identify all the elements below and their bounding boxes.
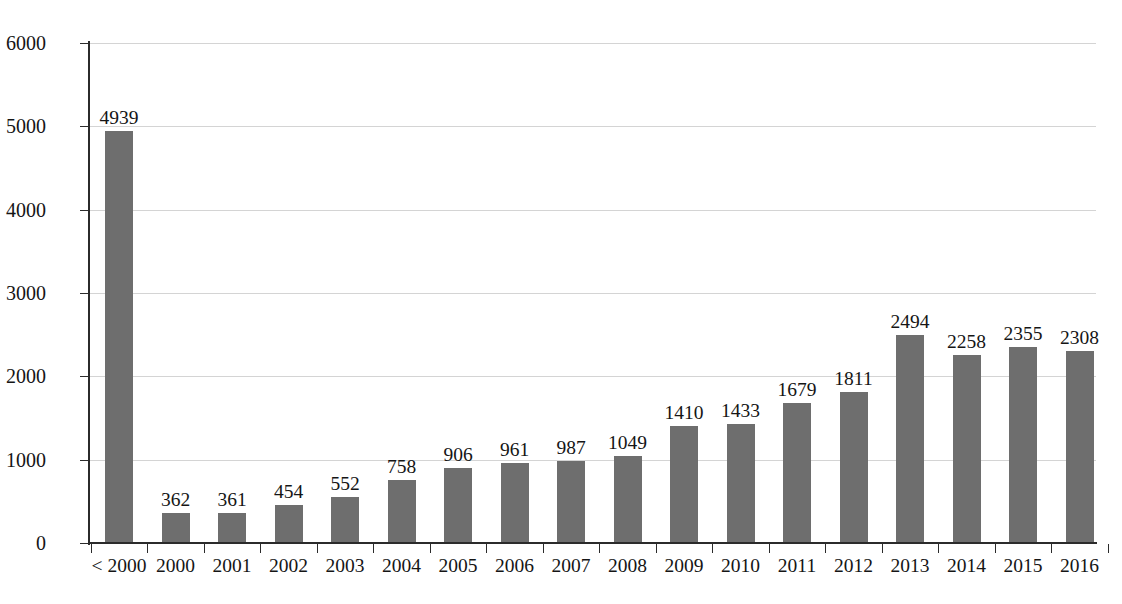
x-axis-tick-label: 2016	[1060, 556, 1099, 576]
x-axis-tick-label: 2009	[665, 556, 704, 576]
gridline	[89, 126, 1096, 127]
bar-value-label: 987	[556, 438, 585, 458]
x-axis-tick-label: 2001	[213, 556, 252, 576]
x-axis-tick-label: 2006	[495, 556, 534, 576]
x-axis-tick	[373, 544, 374, 553]
y-axis-tick	[80, 293, 89, 294]
x-axis-tick	[769, 544, 770, 553]
y-axis-tick-label: 2000	[6, 366, 46, 386]
x-axis-tick	[995, 544, 996, 553]
x-axis-tick-label: 2012	[834, 556, 873, 576]
bar-value-label: 1811	[834, 369, 872, 389]
gridline	[89, 376, 1096, 377]
bar-chart: 0100020003000400050006000 < 200020002001…	[0, 0, 1122, 604]
bar-value-label: 362	[161, 490, 190, 510]
gridline	[89, 293, 1096, 294]
x-axis-tick	[882, 544, 883, 553]
bar-value-label: 2355	[1004, 324, 1043, 344]
bar	[727, 424, 755, 543]
y-axis-tick	[80, 210, 89, 211]
bar-value-label: 906	[443, 445, 472, 465]
bar-value-label: 961	[500, 440, 529, 460]
bar	[388, 480, 416, 543]
x-axis-tick-label: 2004	[382, 556, 421, 576]
plot-area	[89, 43, 1096, 543]
y-axis-tick	[80, 126, 89, 127]
bar-value-label: 1433	[721, 401, 760, 421]
bar	[275, 505, 303, 543]
x-axis-tick-label: 2015	[1004, 556, 1043, 576]
x-axis-tick	[1108, 544, 1109, 553]
x-axis-tick-label: 2013	[891, 556, 930, 576]
gridline	[89, 460, 1096, 461]
bar	[501, 463, 529, 543]
gridline	[89, 210, 1096, 211]
x-axis-tick	[317, 544, 318, 553]
x-axis-tick	[656, 544, 657, 553]
y-axis-tick-label: 1000	[6, 450, 46, 470]
bar	[896, 335, 924, 543]
bar-value-label: 552	[330, 474, 359, 494]
y-axis-tick-label: 4000	[6, 200, 46, 220]
x-axis-line	[89, 542, 1097, 544]
x-axis-tick-label: 2003	[326, 556, 365, 576]
bar	[105, 131, 133, 543]
bar-value-label: 4939	[100, 108, 139, 128]
gridline	[89, 43, 1096, 44]
bar	[1009, 347, 1037, 543]
x-axis-tick-label: 2014	[947, 556, 986, 576]
x-axis-tick-label: 2007	[552, 556, 591, 576]
x-axis-tick	[260, 544, 261, 553]
bar	[444, 468, 472, 544]
x-axis-tick	[486, 544, 487, 553]
bar	[783, 403, 811, 543]
bar	[218, 513, 246, 543]
x-axis-tick	[91, 544, 92, 553]
bar	[331, 497, 359, 543]
y-axis-tick-label: 3000	[6, 283, 46, 303]
x-axis-tick	[599, 544, 600, 553]
y-axis-tick	[80, 43, 89, 44]
bar-value-label: 758	[387, 457, 416, 477]
x-axis-tick-label: 2005	[439, 556, 478, 576]
bar-value-label: 2258	[947, 332, 986, 352]
bar-value-label: 361	[217, 490, 246, 510]
y-axis-tick-label: 0	[36, 533, 46, 553]
x-axis-tick-label: 2011	[778, 556, 816, 576]
x-axis-tick-label: 2008	[608, 556, 647, 576]
bar-value-label: 1679	[778, 380, 817, 400]
bar-value-label: 1049	[608, 433, 647, 453]
bar	[840, 392, 868, 543]
x-axis-tick-label: 2000	[156, 556, 195, 576]
bar	[162, 513, 190, 543]
x-axis-tick	[938, 544, 939, 553]
x-axis-tick	[825, 544, 826, 553]
y-axis-tick	[80, 376, 89, 377]
bar-value-label: 2308	[1060, 328, 1099, 348]
bar	[614, 456, 642, 543]
x-axis-tick-label: < 2000	[92, 556, 147, 576]
y-axis-tick-label: 5000	[6, 116, 46, 136]
bar	[670, 426, 698, 544]
x-axis-tick	[204, 544, 205, 553]
x-axis-tick-label: 2002	[269, 556, 308, 576]
bar-value-label: 454	[274, 482, 303, 502]
x-axis-tick	[147, 544, 148, 553]
bar-value-label: 2494	[891, 312, 930, 332]
x-axis-tick-label: 2010	[721, 556, 760, 576]
x-axis-tick	[543, 544, 544, 553]
bar	[953, 355, 981, 543]
y-axis-tick-label: 6000	[6, 33, 46, 53]
x-axis-tick	[430, 544, 431, 553]
bar-value-label: 1410	[665, 403, 704, 423]
x-axis-tick	[1051, 544, 1052, 553]
bar	[1066, 351, 1094, 543]
x-axis-tick	[712, 544, 713, 553]
bar	[557, 461, 585, 543]
y-axis-tick	[80, 460, 89, 461]
y-axis-tick	[80, 543, 89, 544]
